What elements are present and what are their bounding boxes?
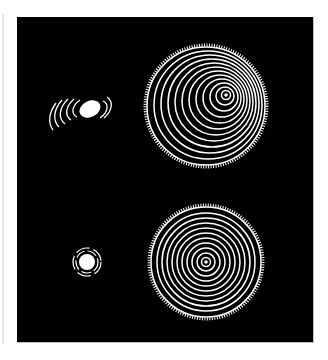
diffraction-figure bbox=[17, 17, 313, 342]
pattern-bottom-left bbox=[73, 248, 101, 276]
pattern-bottom-right bbox=[149, 205, 263, 319]
figure-panel bbox=[17, 17, 314, 343]
page-edge bbox=[2, 14, 4, 344]
pattern-top-left bbox=[50, 97, 112, 130]
pattern-top-right bbox=[145, 45, 267, 167]
